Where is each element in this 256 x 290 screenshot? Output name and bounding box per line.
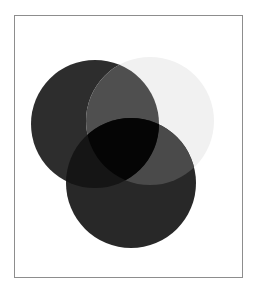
venn-canvas (15, 16, 242, 277)
venn-diagram-svg (15, 16, 242, 277)
figure-frame-border (14, 15, 243, 278)
venn-figure-root (0, 0, 256, 290)
